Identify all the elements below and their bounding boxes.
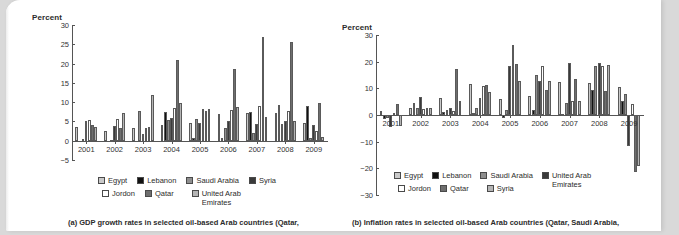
bar [488,92,491,115]
x-tick-label: 2005 [192,145,209,154]
y-tick-mark [376,142,379,143]
x-tick-mark [200,141,201,144]
x-tick-label: 2009 [305,145,322,154]
figure-b: Percent −30−20−1001020302001200220032004… [340,0,661,231]
legend-item[interactable]: Lebanon [137,176,176,185]
bar [236,107,239,141]
x-tick-label: 2003 [442,119,459,128]
x-tick-label: 2004 [163,145,180,154]
bar [318,103,321,141]
y-tick-label: 25 [61,40,69,49]
bar [631,104,634,115]
y-tick-mark [72,44,75,45]
bar [502,115,505,118]
y-tick-label: 15 [61,78,69,87]
y-tick-label: 10 [61,98,69,107]
y-tick-mark [72,121,75,122]
legend-label: Qatar [450,184,469,193]
legend-label: Qatar [155,189,174,198]
x-tick-mark [143,141,144,144]
bar [558,82,561,115]
x-tick-label: 2005 [502,119,519,128]
legend-item[interactable]: Egypt [98,176,127,185]
bar [624,94,627,115]
legend-item[interactable]: Saudi Arabia [480,171,533,180]
x-tick-label: 2002 [106,145,123,154]
x-tick-mark [450,115,451,118]
figure-a: Percent −5051015202530200120022003200420… [10,0,340,231]
legend-row: JordonQatarSyria [398,184,521,193]
page-sheet: Percent −5051015202530200120022003200420… [6,0,661,231]
bar [548,81,551,115]
legend-swatch-icon [249,177,256,184]
legend-row: JordonQatarUnited Arab Emirates [102,189,248,207]
x-tick-mark [480,115,481,118]
legend-swatch-icon [432,172,439,179]
y-tick-mark [376,35,379,36]
x-tick-label: 2007 [249,145,266,154]
legend-label: Syria [259,176,276,185]
legend-item[interactable]: Jordon [398,184,431,193]
bar [208,109,211,141]
y-tick-mark [376,62,379,63]
legend-label: Egypt [404,171,423,180]
x-tick-label: 2003 [135,145,152,154]
legend-label: Egypt [108,176,127,185]
caption-b: (b) Inflation rates in selected oil-base… [352,218,619,227]
legend-swatch-icon [102,190,109,197]
bar [94,127,97,141]
y-tick-label: 10 [365,84,373,93]
x-tick-mark [391,115,392,118]
bar [306,106,309,141]
x-tick-label: 2007 [561,119,578,128]
x-tick-mark [257,141,258,144]
x-tick-label: 2008 [591,119,608,128]
x-tick-mark [540,115,541,118]
y-tick-label: −5 [60,156,69,165]
legend-item[interactable]: United Arab Emirates [192,189,241,207]
legend-row: EgyptLebanonSaudi ArabiaSyria [98,176,283,185]
legend-item[interactable]: Syria [487,184,514,193]
x-tick-mark [314,141,315,144]
bar [151,95,154,141]
legend-item[interactable]: Egypt [394,171,423,180]
bar [637,115,640,166]
bar [293,121,296,141]
bar [265,117,268,141]
y-tick-mark [72,25,75,26]
legend-label: Lebanon [147,176,176,185]
x-tick-label: 2001 [383,119,400,128]
legend-item[interactable]: Jordon [102,189,135,198]
y-tick-label: 20 [61,59,69,68]
x-tick-label: 2001 [78,145,95,154]
bar [469,84,472,115]
legend-label: Saudi Arabia [490,171,533,180]
legend-swatch-icon [487,185,494,192]
bar [122,113,125,140]
bar [459,101,462,115]
bar [218,114,221,140]
x-tick-mark [421,115,422,118]
y-tick-mark [72,160,75,161]
legend-swatch-icon [192,190,199,197]
legend-item[interactable]: Lebanon [432,171,471,180]
legend-item[interactable]: United Arab Emirates [542,171,591,189]
legend-item[interactable]: Syria [249,176,276,185]
legend-swatch-icon [398,185,405,192]
bar [75,127,78,141]
legend-label: Jordon [408,184,431,193]
legend-item[interactable]: Saudi Arabia [186,176,239,185]
legend-item[interactable]: Qatar [440,184,469,193]
y-tick-label: 30 [365,31,373,40]
x-tick-mark [599,115,600,118]
y-tick-label: 0 [65,136,69,145]
legend-item[interactable]: Qatar [145,189,174,198]
x-tick-mark [629,115,630,118]
legend-label: United Arab Emirates [552,171,591,189]
legend-swatch-icon [137,177,144,184]
x-tick-label: 2002 [412,119,429,128]
legend-label: Saudi Arabia [196,176,239,185]
legend-swatch-icon [394,172,401,179]
legend-label: Jordon [112,189,135,198]
y-tick-label: 20 [365,57,373,66]
